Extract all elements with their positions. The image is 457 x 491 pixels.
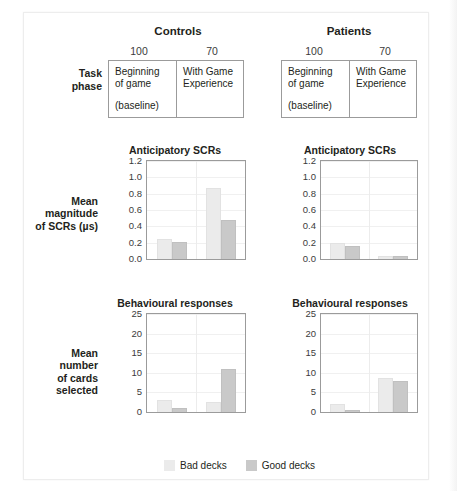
phase-cell-patients-experience: With Game Experience <box>349 61 416 117</box>
phase-cell-line2: of game <box>288 78 344 90</box>
bar-good-decks <box>393 381 408 412</box>
y-axis-label-behaviour: Mean number of cards selected <box>26 347 98 396</box>
phase-cell-patients-baseline: Beginning of game (baseline) <box>282 61 349 117</box>
group-title-controls: Controls <box>103 25 253 37</box>
phase-divider <box>196 314 197 412</box>
plot-area <box>146 160 246 260</box>
figure-page: Controls Patients 100 70 100 70 Task pha… <box>0 0 457 491</box>
y-axis-label-scr: Mean magnitude of SCRs (µs) <box>26 195 98 232</box>
y-axis-label-line2: magnitude <box>26 207 98 219</box>
y-axis-tick-label: 1.2 <box>102 156 142 166</box>
y-axis-label-line1: Mean <box>26 195 98 207</box>
bar-bad-decks <box>157 400 172 412</box>
y-axis-tick-label: 0.4 <box>280 221 316 231</box>
bar-bad-decks <box>378 378 393 412</box>
bar-good-decks <box>172 408 187 412</box>
bar-good-decks <box>221 220 236 259</box>
y-axis-tick-label: 1.0 <box>280 172 316 182</box>
chart-title: Anticipatory SCRs <box>280 144 420 156</box>
y-axis-tick-label: 0 <box>102 407 142 417</box>
bar-bad-decks <box>330 243 345 259</box>
y-axis-tick-label: 0 <box>280 407 316 417</box>
group-title-patients: Patients <box>281 25 417 37</box>
phase-cell-controls-baseline: Beginning of game (baseline) <box>109 61 176 117</box>
y-axis-label-line2: number <box>26 359 98 371</box>
y-axis-tick-label: 10 <box>102 368 142 378</box>
chart-patients-behavioural-responses: Behavioural responses 2520151050 <box>280 297 420 419</box>
y-axis-tick-label: 15 <box>280 348 316 358</box>
y-axis-tick-label: 0.8 <box>102 189 142 199</box>
bar-good-decks <box>221 369 236 412</box>
y-axis-tick-label: 15 <box>102 348 142 358</box>
legend-item-good-decks: Good decks <box>246 460 315 471</box>
y-axis-tick-label: 0.0 <box>280 254 316 264</box>
legend-swatch-good-decks <box>246 460 257 471</box>
phase-table-controls: Beginning of game (baseline) With Game E… <box>108 60 244 118</box>
phase-cell-line1: Beginning <box>115 66 171 78</box>
phase-cell-line2: Experience <box>356 78 411 90</box>
y-axis-tick-label: 5 <box>102 387 142 397</box>
chart-title: Behavioural responses <box>102 297 248 309</box>
y-axis-tick-label: 20 <box>280 329 316 339</box>
bar-bad-decks <box>378 256 393 259</box>
phase-divider <box>369 314 370 412</box>
chart-legend: Bad decks Good decks <box>164 460 315 471</box>
plot-area <box>320 160 418 260</box>
chart-controls-behavioural-responses: Behavioural responses 2520151050 <box>102 297 248 419</box>
column-count-patients-70: 70 <box>354 45 416 57</box>
page-edge-shadow <box>449 0 457 491</box>
phase-cell-note: (baseline) <box>115 100 159 112</box>
bar-good-decks <box>345 246 360 259</box>
legend-label-bad-decks: Bad decks <box>180 460 227 471</box>
phase-divider <box>196 161 197 259</box>
y-axis-label-line1: Mean <box>26 347 98 359</box>
y-axis-tick-label: 1.0 <box>102 172 142 182</box>
y-axis-tick-label: 0.8 <box>280 189 316 199</box>
column-count-patients-100: 100 <box>283 45 345 57</box>
y-axis-label-line3: of cards <box>26 372 98 384</box>
bar-bad-decks <box>157 239 172 259</box>
condition-header-table: Controls Patients 100 70 100 70 Task pha… <box>24 13 428 138</box>
y-axis-tick-label: 0.0 <box>102 254 142 264</box>
column-count-controls-100: 100 <box>108 45 170 57</box>
chart-patients-anticipatory-scrs: Anticipatory SCRs 1.21.00.80.60.40.20.0 <box>280 144 420 266</box>
y-axis-label-line3: of SCRs (µs) <box>26 220 98 232</box>
bar-bad-decks <box>206 188 221 259</box>
chart-title: Behavioural responses <box>280 297 420 309</box>
y-axis-tick-label: 10 <box>280 368 316 378</box>
row-label-line2: phase <box>42 80 102 93</box>
legend-swatch-bad-decks <box>164 460 175 471</box>
legend-item-bad-decks: Bad decks <box>164 460 227 471</box>
column-count-controls-70: 70 <box>181 45 243 57</box>
y-axis-label-line4: selected <box>26 384 98 396</box>
phase-cell-controls-experience: With Game Experience <box>176 61 243 117</box>
phase-cell-line2: Experience <box>183 78 238 90</box>
y-axis-tick-label: 20 <box>102 329 142 339</box>
phase-table-patients: Beginning of game (baseline) With Game E… <box>281 60 417 118</box>
y-axis-tick-label: 0.6 <box>102 205 142 215</box>
phase-cell-line1: With Game <box>356 66 411 78</box>
chart-controls-anticipatory-scrs: Anticipatory SCRs 1.21.00.80.60.40.20.0 <box>102 144 248 266</box>
y-axis-tick-label: 0.2 <box>102 238 142 248</box>
y-axis-tick-label: 1.2 <box>280 156 316 166</box>
plot-area <box>320 313 418 413</box>
phase-cell-line1: With Game <box>183 66 238 78</box>
figure-card: Controls Patients 100 70 100 70 Task pha… <box>23 12 429 480</box>
bar-good-decks <box>393 256 408 259</box>
legend-label-good-decks: Good decks <box>262 460 315 471</box>
row-label-task-phase: Task phase <box>42 67 102 92</box>
y-axis-tick-label: 25 <box>280 309 316 319</box>
phase-divider <box>369 161 370 259</box>
bar-bad-decks <box>330 404 345 412</box>
phase-cell-note: (baseline) <box>288 100 332 112</box>
bar-good-decks <box>345 410 360 412</box>
row-label-line1: Task <box>42 67 102 80</box>
y-axis-tick-label: 0.2 <box>280 238 316 248</box>
bar-good-decks <box>172 242 187 259</box>
y-axis-tick-label: 0.4 <box>102 221 142 231</box>
phase-cell-line2: of game <box>115 78 171 90</box>
y-axis-tick-label: 25 <box>102 309 142 319</box>
y-axis-tick-label: 5 <box>280 387 316 397</box>
chart-title: Anticipatory SCRs <box>102 144 248 156</box>
y-axis-tick-label: 0.6 <box>280 205 316 215</box>
